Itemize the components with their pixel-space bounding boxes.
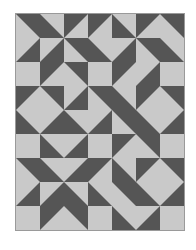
quilt-block (40, 206, 64, 230)
quilt-block (16, 86, 40, 110)
quilt-block (64, 134, 88, 158)
quilt-block (16, 110, 40, 134)
quilt-block (40, 182, 64, 206)
quilt-block (136, 206, 160, 230)
quilt-block (112, 14, 136, 38)
quilt-block (88, 110, 112, 134)
quilt-block (16, 38, 40, 62)
quilt-block (160, 110, 184, 134)
quilt-block (112, 158, 136, 182)
quilt-block (88, 62, 112, 86)
quilt-block (160, 158, 184, 182)
quilt-block (160, 86, 184, 110)
quilt-block (136, 86, 160, 110)
quilt-block (136, 158, 160, 182)
quilt-block (88, 158, 112, 182)
quilt-block (136, 110, 160, 134)
quilt-block (40, 62, 64, 86)
quilt-block (112, 134, 136, 158)
quilt-block (64, 38, 88, 62)
quilt-block (16, 158, 40, 182)
quilt-block (16, 182, 40, 206)
quilt-block (136, 62, 160, 86)
quilt-block (136, 134, 160, 158)
quilt-block (40, 158, 64, 182)
quilt-block (88, 134, 112, 158)
quilt-block (88, 206, 112, 230)
quilt-block (16, 134, 40, 158)
quilt-block (160, 206, 184, 230)
quilt-block (160, 14, 184, 38)
quilt-block (16, 206, 40, 230)
quilt-block (112, 206, 136, 230)
quilt-block (64, 158, 88, 182)
quilt-block (64, 86, 88, 110)
quilt-block (40, 38, 64, 62)
quilt-block (160, 134, 184, 158)
quilt-block (16, 62, 40, 86)
quilt-block (64, 62, 88, 86)
quilt-block (40, 134, 64, 158)
quilt-block (64, 110, 88, 134)
quilt-block (136, 38, 160, 62)
quilt-block (112, 38, 136, 62)
quilt-block (64, 206, 88, 230)
quilt-block (88, 14, 112, 38)
quilt-block (88, 86, 112, 110)
quilt-block (160, 182, 184, 206)
quilt-block (160, 38, 184, 62)
quilt-block (88, 38, 112, 62)
quilt-block (40, 86, 64, 110)
quilt-block (40, 14, 64, 38)
quilt-block (112, 110, 136, 134)
quilt-block (136, 182, 160, 206)
quilt-block (160, 62, 184, 86)
quilt-block (16, 14, 40, 38)
quilt-block (112, 86, 136, 110)
quilt-block (64, 14, 88, 38)
quilt-block (112, 62, 136, 86)
quilt-block (88, 182, 112, 206)
quilt-block (112, 182, 136, 206)
quilt-block (136, 14, 160, 38)
quilt-block (64, 182, 88, 206)
quilt-block (40, 110, 64, 134)
quilt-grid (15, 13, 185, 231)
